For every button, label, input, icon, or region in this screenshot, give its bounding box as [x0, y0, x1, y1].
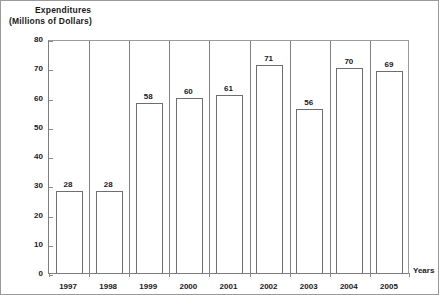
x-axis-tick-label: 1997: [48, 282, 88, 291]
bar-value-label: 28: [94, 180, 122, 189]
bar[interactable]: [256, 65, 283, 273]
x-axis-title: Years: [413, 266, 434, 275]
category-separator: [290, 41, 291, 273]
x-axis-tick-label: 2000: [168, 282, 208, 291]
bar[interactable]: [296, 109, 323, 273]
y-axis-tick-label: 60: [3, 94, 43, 103]
x-axis-tick-label: 2001: [209, 282, 249, 291]
y-axis-tick-label: 70: [3, 64, 43, 73]
x-axis-tick-label: 2004: [329, 282, 369, 291]
bar-value-label: 69: [375, 60, 403, 69]
chart-title: Expenditures (Millions of Dollars): [9, 5, 179, 27]
chart-title-line-1: Expenditures: [9, 5, 179, 16]
y-axis-tick-label: 0: [3, 269, 43, 278]
bar[interactable]: [136, 103, 163, 273]
y-axis-tick-label: 40: [3, 152, 43, 161]
x-axis-tick: [370, 273, 371, 277]
category-separator: [89, 41, 90, 273]
x-axis-tick: [330, 273, 331, 277]
y-axis-tick: [49, 41, 53, 42]
y-axis-tick: [49, 187, 53, 188]
category-separator: [330, 41, 331, 273]
y-axis-tick-label: 50: [3, 123, 43, 132]
bar-value-label: 58: [134, 92, 162, 101]
y-axis-tick-label: 20: [3, 211, 43, 220]
bar-value-label: 61: [215, 84, 243, 93]
bar-value-label: 60: [174, 87, 202, 96]
y-axis-tick: [49, 246, 53, 247]
bar[interactable]: [56, 191, 83, 273]
category-separator: [250, 41, 251, 273]
y-axis-tick: [49, 158, 53, 159]
category-separator: [129, 41, 130, 273]
x-axis-tick-label: 2003: [289, 282, 329, 291]
x-axis-tick: [209, 273, 210, 277]
chart-title-line-2: (Millions of Dollars): [9, 16, 179, 27]
x-axis-tick-label: 2005: [369, 282, 409, 291]
category-separator: [209, 41, 210, 273]
x-axis-tick-label: 1998: [88, 282, 128, 291]
y-axis-tick-label: 10: [3, 240, 43, 249]
y-axis-tick: [49, 100, 53, 101]
x-axis-tick-label: 1999: [128, 282, 168, 291]
category-separator: [370, 41, 371, 273]
bar-value-label: 56: [295, 98, 323, 107]
y-axis-tick: [49, 217, 53, 218]
x-axis-tick: [129, 273, 130, 277]
bar[interactable]: [96, 191, 123, 273]
x-axis-tick: [49, 273, 50, 277]
bar-value-label: 71: [255, 54, 283, 63]
y-axis-tick-label: 30: [3, 181, 43, 190]
x-axis-tick: [250, 273, 251, 277]
x-axis-tick: [169, 273, 170, 277]
bar[interactable]: [216, 95, 243, 273]
bar-value-label: 70: [335, 57, 363, 66]
chart-container: Expenditures (Millions of Dollars) 80706…: [0, 0, 439, 295]
x-axis-tick: [89, 273, 90, 277]
bar-value-label: 28: [54, 180, 82, 189]
category-separator: [169, 41, 170, 273]
plot-area: [48, 40, 409, 274]
bar[interactable]: [336, 68, 363, 273]
y-axis-tick: [49, 129, 53, 130]
y-axis-tick-label: 80: [3, 35, 43, 44]
x-axis-tick: [290, 273, 291, 277]
bar[interactable]: [176, 98, 203, 274]
x-axis-tick-label: 2002: [249, 282, 289, 291]
bar[interactable]: [376, 71, 403, 273]
y-axis-tick: [49, 70, 53, 71]
x-axis-tick: [409, 273, 410, 277]
